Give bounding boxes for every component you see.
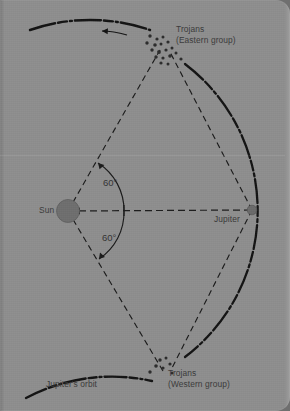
orbit-arc-top [30,20,150,30]
jupiter-label: Jupiter [214,214,240,225]
orbital-direction-arrow [102,28,127,35]
figure-canvas: Trojans (Eastern group) Trojans (Western… [0,0,290,411]
trojans-western-label: Trojans (Western group) [168,368,230,390]
angle-label-lower: 60° [102,232,116,243]
trojans-eastern-line2: (Eastern group) [176,35,236,46]
trojans-eastern-label: Trojans (Eastern group) [176,24,236,46]
page-right-edge [285,0,290,411]
angle-label-upper: 60° [103,177,117,188]
trojans-eastern-line1: Trojans [176,24,236,35]
sun-body [57,200,80,223]
jupiter-body [247,205,257,215]
trojans-western-line2: (Western group) [168,379,230,390]
trojans-western-line1: Trojans [168,368,230,379]
jupiter-orbit-label: Jupiter's orbit [46,379,97,390]
sun-label: Sun [39,205,54,216]
